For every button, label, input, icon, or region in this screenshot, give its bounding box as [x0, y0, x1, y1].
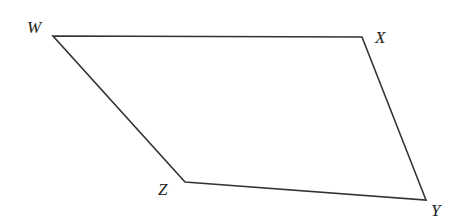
vertex-label-y: Y: [431, 201, 442, 219]
diagram-canvas: W X Y Z: [0, 0, 475, 219]
vertex-label-z: Z: [158, 180, 168, 199]
vertex-label-w: W: [27, 18, 43, 37]
vertex-label-x: X: [374, 28, 386, 47]
quadrilateral-wxyz: [53, 36, 426, 200]
quadrilateral-figure: W X Y Z: [0, 0, 475, 219]
